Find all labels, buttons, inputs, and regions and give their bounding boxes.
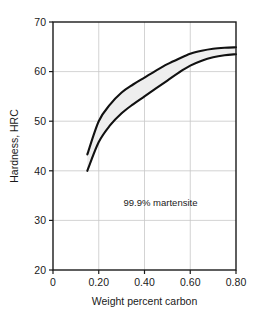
- y-tick-label: 60: [34, 65, 46, 77]
- x-tick-label: 0.60: [180, 276, 201, 288]
- chart-annotations: 99.9% martensite: [124, 197, 198, 208]
- x-tick-label: 0.20: [89, 276, 110, 288]
- y-tick-label: 20: [34, 264, 46, 276]
- y-tick-label: 70: [34, 16, 46, 28]
- x-tick-label: 0: [50, 276, 56, 288]
- y-tick-label: 50: [34, 115, 46, 127]
- y-tick-label: 40: [34, 165, 46, 177]
- chart-svg: 203040506070 00.200.400.600.80 Weight pe…: [0, 0, 261, 319]
- x-axis-title: Weight percent carbon: [92, 295, 198, 307]
- x-tick-label: 0.40: [134, 276, 155, 288]
- chart-annotation-label: 99.9% martensite: [124, 197, 198, 208]
- y-tick-label: 30: [34, 214, 46, 226]
- x-axis-tick-labels: 00.200.400.600.80: [50, 276, 246, 288]
- data-band: [87, 47, 236, 171]
- y-axis-title: Hardness, HRC: [8, 109, 20, 183]
- x-tick-label: 0.80: [226, 276, 247, 288]
- y-axis-tick-labels: 203040506070: [34, 16, 46, 276]
- hardness-vs-carbon-chart: 203040506070 00.200.400.600.80 Weight pe…: [0, 0, 261, 319]
